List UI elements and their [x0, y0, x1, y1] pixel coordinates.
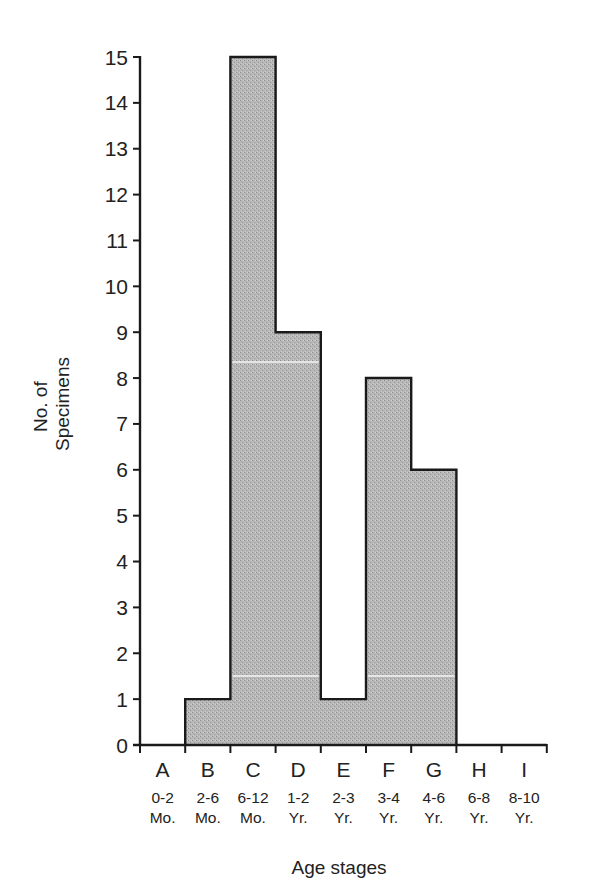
bar-F	[366, 378, 412, 745]
x-category-letter: C	[245, 758, 260, 781]
y-axis-title: No. of Specimens	[30, 357, 73, 451]
x-category-letter: E	[336, 758, 350, 781]
x-category-unit: Yr.	[334, 809, 353, 826]
x-category-unit: Yr.	[515, 809, 534, 826]
y-axis-title-line-1: No. of	[30, 381, 51, 432]
bar-C	[230, 57, 276, 745]
x-category-letter: D	[291, 758, 306, 781]
y-tick-label: 8	[116, 367, 128, 390]
x-category-range: 8-10	[509, 789, 540, 806]
bar-G	[411, 470, 457, 745]
y-tick-label: 15	[105, 46, 128, 69]
y-tick-label: 13	[105, 137, 128, 160]
y-tick-label: 4	[116, 550, 128, 573]
y-tick-label: 12	[105, 183, 128, 206]
x-category-letter: A	[156, 758, 170, 781]
y-tick-label: 6	[116, 458, 128, 481]
y-axis-title-line-2: Specimens	[52, 357, 73, 451]
y-tick-label: 2	[116, 642, 128, 665]
x-category-unit: Yr.	[379, 809, 398, 826]
x-category-unit: Yr.	[289, 809, 308, 826]
y-tick-label: 14	[105, 91, 129, 114]
y-tick-label: 11	[106, 229, 128, 252]
x-category-range: 4-6	[423, 789, 445, 806]
bar-B	[185, 699, 231, 745]
x-category-range: 0-2	[151, 789, 173, 806]
bar-D	[276, 332, 322, 745]
x-category-unit: Yr.	[470, 809, 489, 826]
x-category-range: 3-4	[377, 789, 400, 806]
x-category-range: 2-6	[197, 789, 219, 806]
y-axis: 0123456789101112131415	[105, 46, 140, 757]
x-category-letter: B	[201, 758, 215, 781]
x-category-unit: Mo.	[150, 809, 176, 826]
y-tick-label: 5	[116, 504, 128, 527]
y-tick-label: 0	[116, 734, 128, 757]
x-category-letter: I	[521, 758, 527, 781]
histogram-chart: 0123456789101112131415 A0-2Mo.B2-6Mo.C6-…	[0, 0, 594, 892]
x-category-letter: F	[382, 758, 395, 781]
x-category-range: 1-2	[287, 789, 309, 806]
x-category-range: 6-12	[237, 789, 268, 806]
x-category-letter: H	[471, 758, 486, 781]
x-category-unit: Mo.	[240, 809, 266, 826]
y-tick-label: 3	[116, 596, 128, 619]
x-axis: A0-2Mo.B2-6Mo.C6-12Mo.D1-2Yr.E2-3Yr.F3-4…	[133, 744, 547, 826]
x-category-range: 2-3	[332, 789, 354, 806]
x-category-letter: G	[426, 758, 442, 781]
y-tick-label: 7	[116, 412, 128, 435]
y-tick-label: 10	[105, 275, 128, 298]
x-category-range: 6-8	[468, 789, 490, 806]
bar-E	[321, 699, 367, 745]
y-tick-label: 1	[116, 688, 128, 711]
x-category-unit: Yr.	[424, 809, 443, 826]
x-category-unit: Mo.	[195, 809, 221, 826]
y-tick-label: 9	[116, 321, 128, 344]
x-axis-title: Age stages	[291, 857, 386, 878]
